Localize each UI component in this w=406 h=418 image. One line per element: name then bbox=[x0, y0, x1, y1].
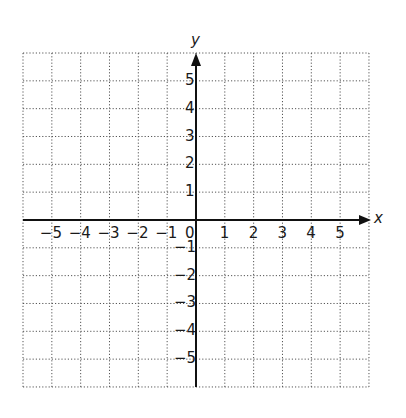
y-tick-label: 3 bbox=[185, 129, 195, 144]
x-tick-label: −3 bbox=[98, 226, 120, 241]
x-tick-label: 3 bbox=[277, 226, 287, 241]
y-axis-arrow-icon bbox=[191, 53, 201, 66]
y-tick-label: 2 bbox=[185, 156, 195, 171]
y-tick-label: −2 bbox=[174, 268, 196, 283]
x-tick-label: 2 bbox=[249, 226, 259, 241]
x-tick-label: 4 bbox=[306, 226, 316, 241]
x-axis-label: x bbox=[374, 211, 383, 226]
origin-label: 0 bbox=[185, 226, 195, 241]
x-tick-label: −2 bbox=[126, 226, 148, 241]
y-tick-label: −3 bbox=[174, 295, 196, 310]
y-tick-label: 4 bbox=[185, 101, 195, 116]
y-tick-label: 5 bbox=[185, 73, 195, 88]
y-tick-label: −1 bbox=[174, 240, 196, 255]
y-tick-label: −5 bbox=[174, 351, 196, 366]
y-axis-label: y bbox=[191, 33, 200, 48]
x-tick-label: −4 bbox=[69, 226, 91, 241]
y-tick-label: 1 bbox=[185, 184, 195, 199]
x-tick-label: 1 bbox=[220, 226, 230, 241]
x-tick-label: 5 bbox=[335, 226, 345, 241]
coordinate-plane bbox=[0, 0, 406, 418]
x-tick-label: −5 bbox=[40, 226, 62, 241]
y-tick-label: −4 bbox=[174, 323, 196, 338]
